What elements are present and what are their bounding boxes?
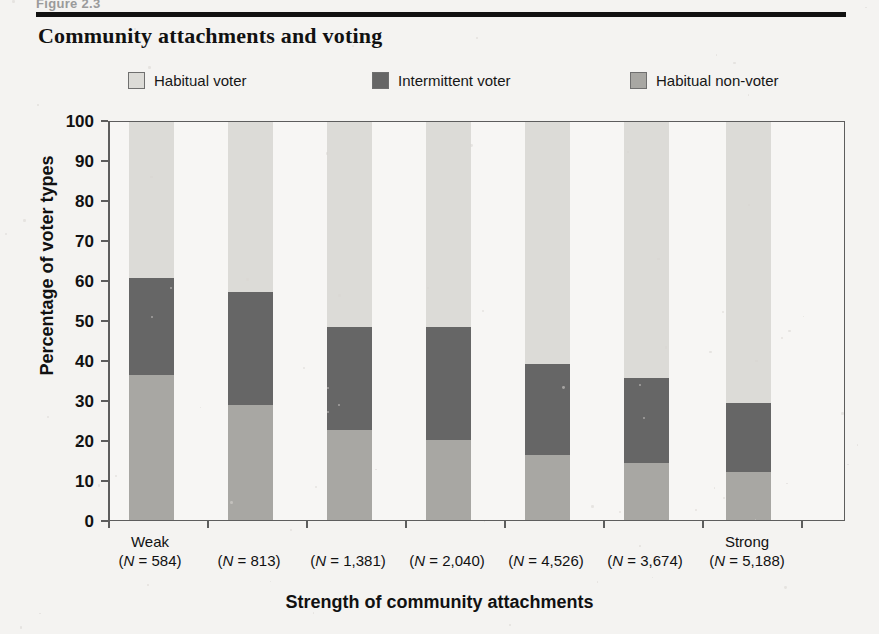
y-axis-tick	[101, 440, 108, 442]
bar-segment	[327, 122, 372, 327]
y-axis-tick	[101, 520, 108, 522]
y-axis-tick	[101, 120, 108, 122]
paper-speckle	[5, 233, 7, 235]
legend-swatch-habitual-non-voter	[630, 72, 647, 89]
plot-area	[108, 121, 845, 521]
chart-title: Community attachments and voting	[38, 23, 382, 49]
bar-segment	[129, 375, 174, 520]
paper-speckle	[733, 62, 735, 64]
legend-item-intermittent-voter: Intermittent voter	[372, 72, 511, 89]
y-axis-tick	[101, 360, 108, 362]
y-axis-title: Percentage of voter types	[37, 96, 58, 436]
bar-segment	[624, 463, 669, 520]
bar-segment	[624, 122, 669, 378]
paper-speckle	[12, 0, 15, 3]
paper-speckle	[147, 584, 149, 586]
bar-segment	[228, 292, 273, 406]
x-axis-sample-size-label: (N = 5,188)	[688, 551, 806, 571]
bar-segment	[426, 327, 471, 440]
x-axis-sample-size-label: (N = 3,674)	[586, 551, 704, 571]
paper-speckle	[270, 581, 271, 582]
bar-column	[426, 122, 471, 520]
paper-speckle	[857, 444, 858, 445]
paper-speckle	[23, 219, 26, 222]
bar-column	[228, 122, 273, 520]
x-axis-category-label: .(N = 3,674)	[586, 533, 704, 571]
paper-speckle	[597, 581, 599, 583]
x-axis-tick	[108, 521, 110, 528]
y-axis-tick	[101, 400, 108, 402]
paper-speckle	[476, 37, 478, 39]
bar-column	[525, 122, 570, 520]
y-axis-tick	[101, 160, 108, 162]
paper-speckle	[865, 7, 866, 8]
paper-speckle	[20, 626, 22, 628]
y-axis-line	[108, 121, 110, 521]
legend-label-intermittent-voter: Intermittent voter	[398, 73, 511, 88]
x-axis-tick	[801, 521, 803, 528]
bar-segment	[129, 278, 174, 375]
bar-column	[129, 122, 174, 520]
bar-segment	[327, 327, 372, 430]
paper-speckle	[716, 54, 717, 55]
paper-speckle	[484, 521, 485, 522]
x-axis-tick	[207, 521, 209, 528]
paper-speckle	[784, 586, 787, 589]
x-axis-title: Strength of community attachments	[0, 592, 879, 613]
x-axis-tick	[306, 521, 308, 528]
bar-segment	[726, 403, 771, 471]
bar-segment	[726, 122, 771, 403]
y-axis-tick	[101, 320, 108, 322]
paper-speckle	[98, 484, 101, 487]
figure-number-stub: Figure 2.3	[36, 0, 100, 11]
y-axis-tick-label: 0	[50, 513, 94, 530]
bar-segment	[327, 430, 372, 520]
bar-segment	[228, 122, 273, 292]
bars-layer	[109, 122, 844, 520]
x-axis-tick	[603, 521, 605, 528]
x-axis-tick	[405, 521, 407, 528]
bar-segment	[426, 122, 471, 327]
chart-legend: Habitual voter Intermittent voter Habitu…	[120, 72, 860, 98]
legend-item-habitual-non-voter: Habitual non-voter	[630, 72, 779, 89]
legend-swatch-intermittent-voter	[372, 72, 389, 89]
paper-speckle	[290, 529, 292, 531]
x-axis-tick	[504, 521, 506, 528]
figure-page: Figure 2.3 Community attachments and vot…	[0, 0, 879, 634]
paper-speckle	[847, 464, 849, 466]
bar-segment	[129, 122, 174, 278]
x-axis-category-label: Strong(N = 5,188)	[688, 533, 806, 571]
bar-segment	[525, 455, 570, 520]
bar-segment	[726, 472, 771, 520]
y-axis-tick	[101, 280, 108, 282]
top-rule-divider	[36, 12, 846, 17]
legend-swatch-habitual-voter	[128, 72, 145, 89]
bar-segment	[624, 378, 669, 463]
bar-segment	[525, 364, 570, 455]
x-axis-endpoint-label: Strong	[688, 533, 806, 551]
legend-label-habitual-voter: Habitual voter	[154, 73, 247, 88]
paper-speckle	[652, 577, 653, 578]
bar-column	[624, 122, 669, 520]
y-axis-tick	[101, 480, 108, 482]
legend-item-habitual-voter: Habitual voter	[128, 72, 247, 89]
bar-segment	[228, 405, 273, 520]
y-axis-tick-label: 10	[50, 473, 94, 490]
x-axis-tick	[702, 521, 704, 528]
bar-column	[327, 122, 372, 520]
bar-column	[726, 122, 771, 520]
y-axis-tick-label: 20	[50, 433, 94, 450]
y-axis-tick	[101, 200, 108, 202]
y-axis-tick	[101, 240, 108, 242]
paper-speckle	[509, 624, 510, 625]
bar-segment	[525, 122, 570, 364]
bar-segment	[426, 440, 471, 520]
legend-label-habitual-non-voter: Habitual non-voter	[656, 73, 779, 88]
paper-speckle	[148, 66, 151, 69]
